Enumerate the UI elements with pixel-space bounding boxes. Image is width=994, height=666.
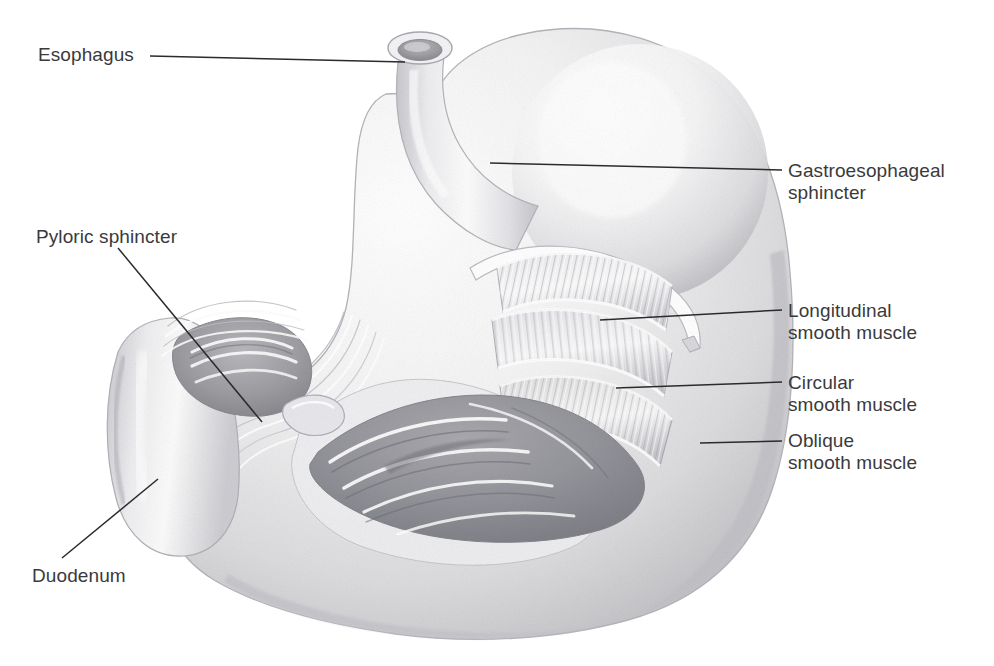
label-pyloric-sphincter: Pyloric sphincter (36, 226, 177, 248)
label-duodenum: Duodenum (32, 565, 126, 587)
esophagus-lumen-highlight (404, 42, 430, 52)
label-oblique-smooth-muscle: Oblique smooth muscle (788, 430, 917, 474)
fundus-highlight (538, 62, 686, 218)
label-gastroesophageal-sphincter: Gastroesophageal sphincter (788, 160, 945, 204)
label-longitudinal-smooth-muscle: Longitudinal smooth muscle (788, 300, 917, 344)
label-esophagus: Esophagus (38, 44, 134, 66)
label-circular-smooth-muscle: Circular smooth muscle (788, 372, 917, 416)
